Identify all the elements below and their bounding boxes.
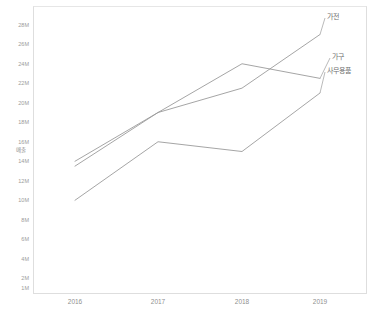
series-leader-line — [320, 18, 325, 35]
series-label-가전: 가전 — [327, 12, 339, 21]
series-leader-line — [320, 72, 325, 93]
series-line — [75, 64, 320, 166]
series-label-가구: 가구 — [332, 52, 344, 61]
line-chart: 매출 28M26M24M22M20M18M16M14M12M10M8M6M4M2… — [0, 0, 373, 319]
series-line — [75, 93, 320, 200]
series-lines-layer — [0, 0, 373, 319]
series-label-사무용품: 사무용품 — [327, 66, 351, 75]
